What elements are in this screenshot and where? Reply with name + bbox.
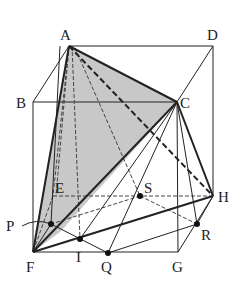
label-i: I (76, 249, 81, 265)
point-p (48, 221, 54, 227)
label-q: Q (101, 259, 112, 275)
label-p: P (6, 218, 14, 234)
label-b: B (16, 95, 26, 111)
point-r (194, 221, 200, 227)
label-f: F (26, 259, 34, 275)
label-h: H (218, 189, 229, 205)
label-e: E (55, 180, 64, 196)
point-s (137, 193, 143, 199)
cube-diagram: A D B C E S H P R F I Q G (0, 0, 242, 305)
label-a: A (60, 27, 71, 43)
point-i (77, 236, 83, 242)
label-g: G (172, 259, 183, 275)
label-c: C (180, 95, 190, 111)
label-r: R (201, 227, 211, 243)
label-s: S (144, 180, 152, 196)
label-d: D (207, 27, 218, 43)
point-q (105, 250, 111, 256)
